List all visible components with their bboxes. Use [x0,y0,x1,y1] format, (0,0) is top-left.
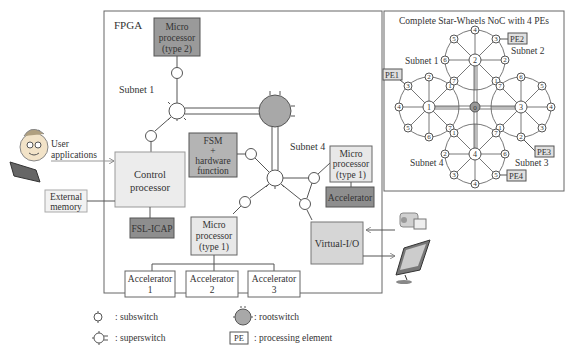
svg-text:: subswitch: : subswitch [115,312,158,322]
svg-text:Micro: Micro [202,220,225,230]
noc-subnet3-label: Subnet 3 [515,158,549,168]
microprocessor-type2[interactable]: Micro processor (type 2) [154,18,200,56]
subswitch [172,68,183,79]
control-processor[interactable]: Control processor [115,152,185,207]
svg-text:5: 5 [406,124,410,132]
rootswitch-legend-icon [233,306,253,325]
svg-text:0: 0 [473,104,477,112]
subswitch [309,173,320,184]
noc-subnet1-label: Subnet 1 [405,56,439,66]
pe2[interactable]: PE2 [508,33,527,44]
svg-text:Accelerator: Accelerator [252,274,297,284]
svg-text:PE: PE [234,333,244,343]
svg-text:(type 2): (type 2) [162,44,192,55]
virtual-io[interactable]: Virtual-I/O [311,222,363,264]
user-apps-label: applications [51,150,97,160]
svg-text:1: 1 [427,103,431,112]
subswitch [146,131,157,142]
subswitch-legend-icon [94,311,102,323]
svg-text:: superswitch: : superswitch [115,333,166,343]
svg-text:2: 2 [473,56,477,65]
svg-text:4: 4 [549,103,553,111]
accelerator-1[interactable]: Accelerator 1 [125,271,175,297]
svg-text:3: 3 [519,103,523,112]
svg-text:6: 6 [427,133,431,141]
accelerator-3[interactable]: Accelerator 3 [248,271,300,297]
microprocessor-type1[interactable]: Micro processor (type 1) [191,217,237,255]
svg-text:processor: processor [130,182,171,193]
pe4[interactable]: PE4 [507,170,526,181]
svg-text:Control: Control [134,169,166,180]
svg-text:4: 4 [473,26,477,34]
svg-text:5: 5 [540,82,544,90]
svg-text:3: 3 [540,124,544,132]
svg-text:3: 3 [406,82,410,90]
svg-text:Micro: Micro [165,22,188,32]
external-memory[interactable]: External memory [45,190,87,212]
svg-text:: processing element: : processing element [254,333,332,343]
noc-title: Complete Star-Wheels NoC with 4 PEs [399,16,549,26]
camera-icon [400,213,426,229]
svg-text:4: 4 [397,103,401,111]
monitor-icon [396,240,430,284]
svg-text:processor: processor [196,231,233,241]
subnet1-label: Subnet 1 [119,84,154,95]
svg-text:5: 5 [494,171,498,179]
svg-text:Accelerator: Accelerator [190,274,235,284]
svg-text:2: 2 [427,73,431,81]
svg-text:2: 2 [443,150,447,158]
svg-text:Accelerator: Accelerator [128,274,173,284]
svg-text:FSM: FSM [203,136,223,146]
subswitch [246,149,257,160]
noc-subnet4-label: Subnet 4 [410,158,444,168]
svg-text:PE2: PE2 [510,34,524,44]
svg-text:1: 1 [452,129,456,137]
superswitch-legend-icon [92,331,108,345]
svg-text:External: External [50,192,83,202]
microprocessor-type1-subnet4[interactable]: Micro processor (type 1) [330,146,372,182]
svg-text:6: 6 [519,73,523,81]
svg-text:7: 7 [498,82,502,90]
user-apps-label: User [51,139,70,149]
svg-text:memory: memory [50,202,82,212]
svg-text:2: 2 [503,56,507,64]
svg-text:2: 2 [210,285,215,295]
svg-text:PE4: PE4 [509,171,524,181]
svg-text:3: 3 [494,35,498,43]
user-avatar-icon [10,129,48,182]
svg-text:FSL-ICAP: FSL-ICAP [131,224,172,234]
svg-text:3: 3 [272,285,277,295]
svg-text:3: 3 [452,171,456,179]
svg-text:function: function [197,166,229,176]
svg-text:2: 2 [519,133,523,141]
noc-subnet2-label: Subnet 2 [511,46,545,56]
svg-text:6: 6 [443,56,447,64]
svg-text:7: 7 [452,77,456,85]
svg-text:4: 4 [473,150,477,159]
pe3[interactable]: PE3 [535,146,554,157]
svg-text:1: 1 [148,285,153,295]
svg-text:(type 1): (type 1) [336,170,366,181]
svg-text:Micro: Micro [339,149,362,159]
svg-text:: rootswitch: : rootswitch [254,312,299,322]
subnet4-label: Subnet 4 [290,141,325,152]
svg-text:+: + [210,146,215,156]
fpga-title: FPGA [114,19,142,31]
svg-text:processor: processor [159,33,196,43]
svg-text:5: 5 [452,35,456,43]
accelerator-subnet4[interactable]: Accelerator [326,187,374,207]
svg-text:Virtual-I/O: Virtual-I/O [315,238,359,249]
svg-text:hardware: hardware [195,156,230,166]
accelerator-2[interactable]: Accelerator 2 [186,271,238,297]
svg-text:processor: processor [333,159,370,169]
svg-text:PE1: PE1 [385,70,399,80]
svg-text:Accelerator: Accelerator [328,193,373,203]
subswitch [240,197,251,208]
diagram-canvas: FPGA Micro processor (type 2) Subnet 1 C… [0,0,567,355]
fsm-hardware-function[interactable]: FSM + hardware function [189,133,237,177]
fsl-icap[interactable]: FSL-ICAP [130,218,174,238]
svg-text:7: 7 [494,129,498,137]
subswitch [300,199,311,210]
svg-text:6: 6 [503,150,507,158]
pe1[interactable]: PE1 [383,69,402,80]
